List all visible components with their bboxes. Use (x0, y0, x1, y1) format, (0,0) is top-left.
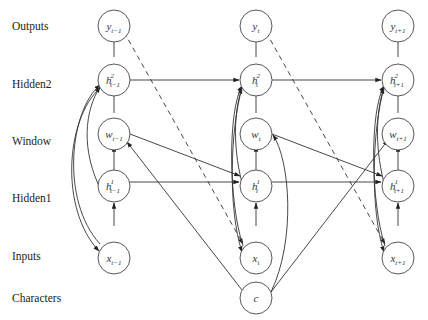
node-h1-t+1: h1t+1 (382, 170, 414, 202)
node-w-t-1: wt−1 (98, 118, 130, 150)
node-h1-t: h1t (240, 170, 272, 202)
node-x-t-1: xt−1 (98, 242, 130, 274)
row-label-hidden1: Hidden1 (12, 192, 52, 204)
rnn-handwriting-diagram: Outputs Hidden2 Window Hidden1 Inputs Ch… (0, 0, 428, 320)
node-x-t: xt (240, 242, 272, 274)
row-label-outputs: Outputs (12, 20, 49, 33)
row-label-inputs: Inputs (12, 250, 41, 263)
svg-text:c: c (254, 292, 259, 304)
node-h2-t: h2t (240, 64, 272, 96)
node-w-t: wt (240, 118, 272, 150)
row-label-window: Window (12, 135, 52, 147)
node-y-t-1: yt−1 (98, 10, 130, 42)
node-h2-t-1: h2t−1 (98, 64, 130, 96)
row-label-characters: Characters (12, 292, 62, 304)
node-h2-t+1: h2t+1 (382, 64, 414, 96)
node-y-t+1: yt+1 (382, 10, 414, 42)
node-h1-t-1: h1t−1 (98, 170, 130, 202)
row-label-hidden2: Hidden2 (12, 78, 52, 90)
node-characters-c: c (240, 282, 272, 314)
node-w-t+1: wt+1 (382, 118, 414, 150)
node-x-t+1: xt+1 (382, 242, 414, 274)
node-y-t: yt (240, 10, 272, 42)
